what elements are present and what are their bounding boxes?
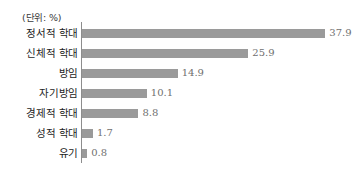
value-label: 37.9 [329,23,351,43]
bar-row: 신체적 학대 25.9 [0,43,344,63]
plot-area: 정서적 학대 37.9 신체적 학대 25.9 방임 14.9 자기방임 10.… [0,22,344,164]
value-label: 1.7 [97,123,113,143]
value-label: 25.9 [252,43,274,63]
category-label: 방임 [0,63,78,83]
bar [82,69,178,78]
value-label: 10.1 [151,83,173,103]
category-label: 정서적 학대 [0,23,78,43]
category-label: 신체적 학대 [0,43,78,63]
value-label: 8.8 [142,103,158,123]
bar [82,109,138,118]
bar [82,29,325,38]
bar [82,49,248,58]
bar [82,129,93,138]
bar [82,149,87,158]
value-label: 14.9 [182,63,204,83]
bar-row: 정서적 학대 37.9 [0,23,344,43]
bar-row: 성적 학대 1.7 [0,123,344,143]
bar-row: 방임 14.9 [0,63,344,83]
bar-row: 자기방임 10.1 [0,83,344,103]
category-label: 유기 [0,143,78,163]
bar-row: 경제적 학대 8.8 [0,103,344,123]
category-label: 경제적 학대 [0,103,78,123]
value-label: 0.8 [91,143,107,163]
category-label: 자기방임 [0,83,78,103]
category-label: 성적 학대 [0,123,78,143]
bar [82,89,147,98]
bar-row: 유기 0.8 [0,143,344,163]
